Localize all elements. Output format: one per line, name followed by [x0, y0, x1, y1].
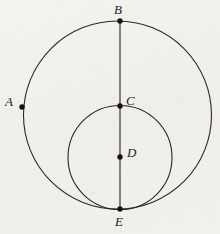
shape-layer [24, 21, 212, 210]
point-b-dot [117, 18, 122, 23]
point-d-dot [117, 154, 122, 159]
point-b-label: B [114, 3, 122, 16]
point-e-label: E [115, 215, 123, 228]
point-a-dot [19, 104, 24, 109]
point-layer [19, 18, 122, 211]
point-d-label: D [127, 146, 136, 159]
large-circle [24, 21, 212, 209]
point-c-label: C [126, 94, 135, 107]
point-c-dot [117, 103, 122, 108]
geometry-figure: BACDE [0, 0, 220, 234]
point-a-label: A [5, 95, 13, 108]
point-e-dot [117, 206, 122, 211]
geometry-canvas [0, 0, 220, 234]
